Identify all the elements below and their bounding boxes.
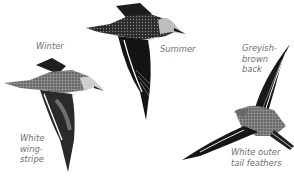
label-white-outer-tail-feathers: White outer tail feathers — [231, 147, 282, 168]
label-greyish-brown-back: Greyish- brown back — [242, 43, 277, 75]
label-winter: Winter — [36, 41, 64, 52]
label-summer: Summer — [160, 44, 196, 55]
bird-illustration: Winter Summer Greyish- brown back White … — [0, 0, 294, 183]
summer-bird — [86, 3, 186, 120]
winter-bird — [4, 58, 104, 172]
back-view-bird — [182, 44, 294, 160]
label-white-wing-stripe: White wing- stripe — [20, 133, 44, 165]
